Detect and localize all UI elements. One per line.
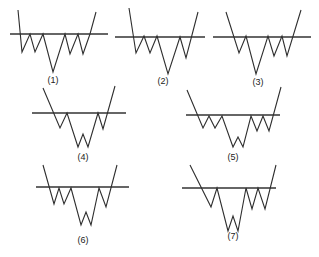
price-trace (190, 165, 276, 231)
panel-label: (1) (48, 75, 59, 85)
price-trace (129, 8, 198, 74)
price-trace (187, 87, 281, 147)
price-trace (226, 10, 301, 74)
pattern-panel-6: (6) (36, 165, 129, 245)
price-trace (43, 86, 115, 147)
panel-label: (7) (228, 231, 239, 241)
pattern-panel-5: (5) (186, 87, 281, 162)
pattern-panel-4: (4) (32, 86, 126, 162)
pattern-panel-3: (3) (213, 10, 311, 87)
pattern-panel-1: (1) (10, 10, 108, 85)
pattern-panel-2: (2) (115, 8, 205, 86)
panel-label: (3) (253, 77, 264, 87)
panel-label: (4) (78, 152, 89, 162)
pattern-panel-7: (7) (182, 165, 276, 241)
price-trace (18, 10, 96, 72)
price-trace (43, 165, 117, 225)
panel-label: (5) (228, 152, 239, 162)
panel-label: (6) (78, 235, 89, 245)
panel-label: (2) (158, 76, 169, 86)
pattern-diagram-canvas: (1)(2)(3)(4)(5)(6)(7) (0, 0, 319, 257)
